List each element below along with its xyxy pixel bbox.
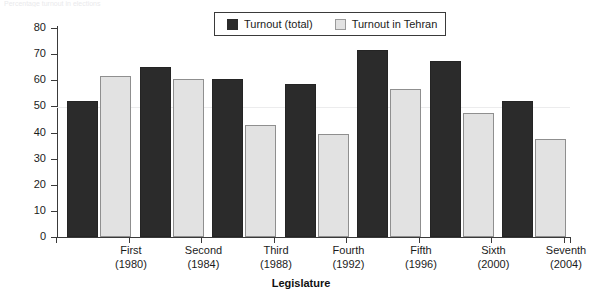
bar-turnout-tehran xyxy=(245,125,276,237)
y-axis-tick-label: 30 xyxy=(0,152,46,164)
y-axis-tick-label: 20 xyxy=(0,178,46,190)
bar-turnout-tehran xyxy=(390,89,421,237)
bar-turnout-total xyxy=(67,101,98,237)
category-name: Third xyxy=(263,244,288,256)
bar-turnout-total xyxy=(212,79,243,237)
category-year: (2004) xyxy=(516,257,602,271)
bar-group xyxy=(430,28,494,237)
bar-turnout-total xyxy=(430,61,461,237)
bar-turnout-tehran xyxy=(535,139,566,237)
category-name: Sixth xyxy=(481,244,505,256)
y-axis-tick-label: 0 xyxy=(0,230,46,242)
bar-turnout-tehran xyxy=(100,76,131,237)
bar-group xyxy=(285,28,349,237)
bar-turnout-total xyxy=(357,50,388,237)
x-axis-title: Legislature xyxy=(0,277,602,289)
x-axis-line xyxy=(57,237,571,238)
bar-turnout-tehran xyxy=(463,113,494,237)
bar-turnout-total xyxy=(140,67,171,237)
bar-group xyxy=(357,28,421,237)
plot-area xyxy=(57,28,570,237)
cropped-header-text: Percentage turnout in elections xyxy=(4,0,234,7)
y-axis-tick-label: 10 xyxy=(0,204,46,216)
bar-chart-figure: Percentage turnout in elections Turnout … xyxy=(0,0,602,297)
y-axis-tick-label: 40 xyxy=(0,126,46,138)
bar-group xyxy=(67,28,131,237)
category-name: Fourth xyxy=(333,244,365,256)
category-name: Seventh xyxy=(546,244,586,256)
bar-turnout-total xyxy=(285,84,316,237)
bar-group xyxy=(502,28,566,237)
x-axis-category-label: Seventh(2004) xyxy=(516,243,602,271)
y-axis-tick-label: 60 xyxy=(0,73,46,85)
y-axis-tick-label: 50 xyxy=(0,99,46,111)
category-name: Fifth xyxy=(410,244,431,256)
bar-turnout-total xyxy=(502,101,533,237)
bar-group xyxy=(212,28,276,237)
y-axis-tick-label: 80 xyxy=(0,21,46,33)
y-axis-tick-label: 70 xyxy=(0,47,46,59)
bar-group xyxy=(140,28,204,237)
bar-turnout-tehran xyxy=(173,79,204,237)
bar-turnout-tehran xyxy=(318,134,349,237)
x-axis-tick xyxy=(56,237,57,243)
category-name: Second xyxy=(185,244,222,256)
category-name: First xyxy=(120,244,141,256)
